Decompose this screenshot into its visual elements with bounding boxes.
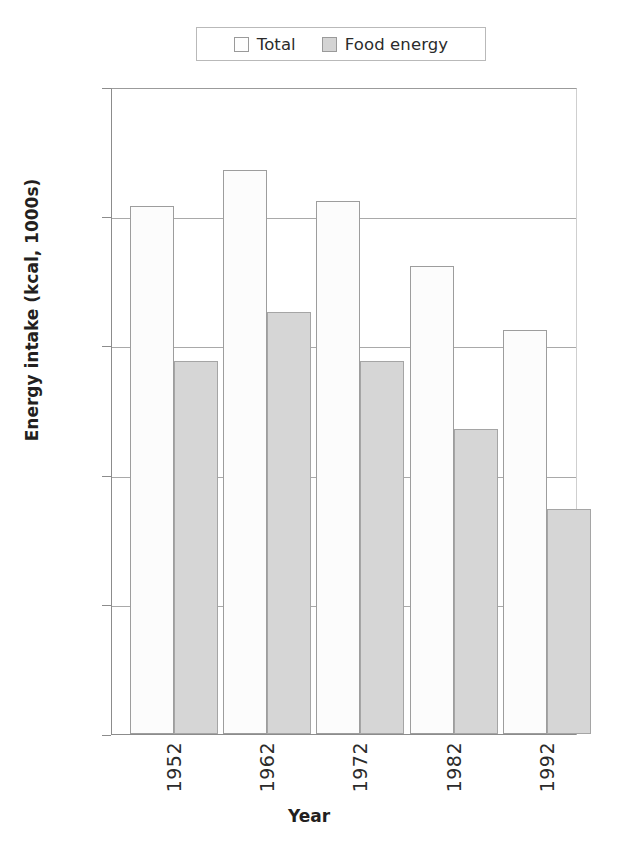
x-axis-title: Year — [0, 806, 618, 826]
bar-total-1952 — [130, 206, 174, 734]
x-tick-label-1982: 1982 — [443, 742, 465, 792]
x-tick-label-1972: 1972 — [349, 742, 371, 792]
y-axis-title: Energy intake (kcal, 1000s) — [22, 90, 42, 530]
filled-square-swatch-icon — [322, 37, 337, 52]
y-tick-mark — [102, 217, 111, 218]
x-tick-label-1992: 1992 — [536, 742, 558, 792]
plot-area — [111, 88, 577, 735]
bar-food-energy-1982 — [454, 429, 498, 734]
y-tick-mark — [102, 346, 111, 347]
x-tick-label-1962: 1962 — [256, 742, 278, 792]
bar-food-energy-1972 — [360, 361, 404, 734]
open-square-swatch-icon — [234, 37, 249, 52]
legend-entry-food-energy: Food energy — [322, 35, 448, 54]
bar-total-1972 — [316, 201, 360, 734]
x-tick-label-1952: 1952 — [163, 742, 185, 792]
legend-entry-total: Total — [234, 35, 296, 54]
legend-label-total: Total — [257, 35, 296, 54]
y-tick-mark — [102, 605, 111, 606]
bar-food-energy-1992 — [547, 509, 591, 734]
bar-total-1992 — [503, 330, 547, 734]
legend-label-food-energy: Food energy — [345, 35, 448, 54]
y-tick-mark — [102, 735, 111, 736]
y-tick-mark — [102, 88, 111, 89]
bar-food-energy-1962 — [267, 312, 311, 734]
bar-total-1982 — [410, 266, 454, 734]
bar-food-energy-1952 — [174, 361, 218, 734]
bar-total-1962 — [223, 170, 267, 734]
chart-legend: Total Food energy — [196, 27, 486, 61]
caption-sliver — [12, 841, 372, 850]
y-tick-mark — [102, 476, 111, 477]
